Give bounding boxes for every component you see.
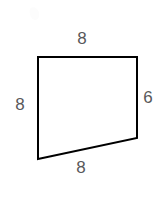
side-label-left: 8 <box>10 96 30 113</box>
quadrilateral-outline <box>38 57 137 159</box>
diagram-canvas: 8 8 6 8 <box>0 0 163 204</box>
side-label-top: 8 <box>72 30 92 47</box>
side-label-bottom: 8 <box>71 159 91 176</box>
side-label-right: 6 <box>138 89 158 106</box>
